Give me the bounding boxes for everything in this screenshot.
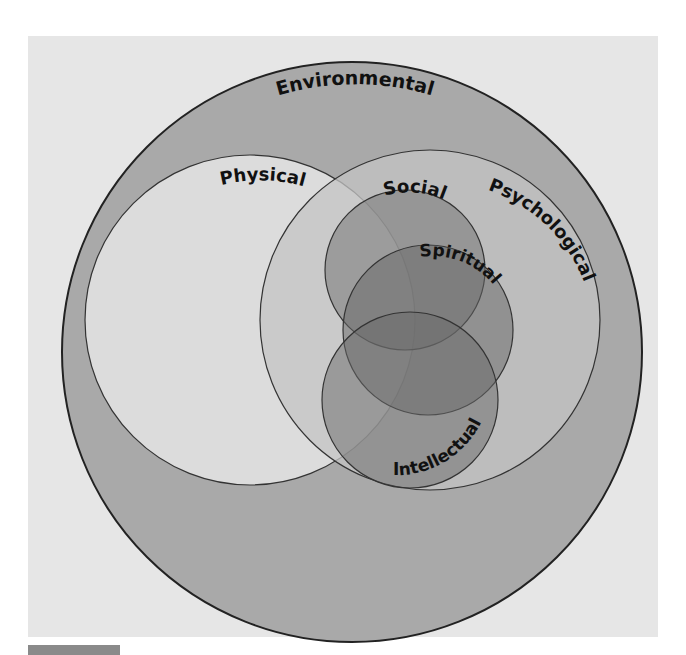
tab-marker <box>28 645 120 655</box>
wellness-dimensions-diagram: Environmental Physical Psychological Soc… <box>0 0 686 655</box>
